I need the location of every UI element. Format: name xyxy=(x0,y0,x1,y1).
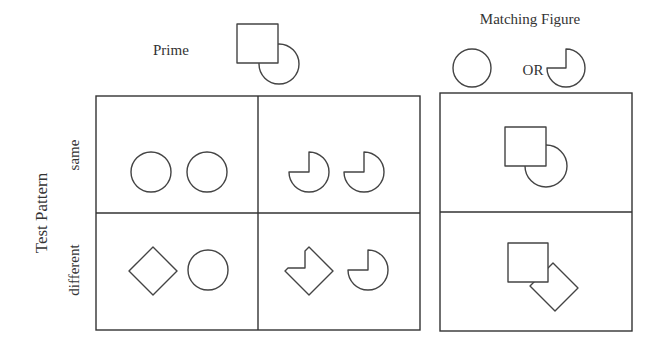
or-label: OR xyxy=(523,62,544,78)
test-pattern-axis-label: Test Pattern xyxy=(32,172,51,253)
circle-icon xyxy=(187,152,227,192)
prime-figure-icon xyxy=(237,24,299,84)
row-label-different: different xyxy=(66,243,82,295)
prime-label: Prime xyxy=(153,42,189,58)
diagram-canvas: Prime Matching Figure OR Test Pattern sa… xyxy=(0,0,657,341)
pacman-notched-circle-icon xyxy=(344,152,384,192)
matching-same-square-circle xyxy=(505,127,567,187)
row-label-same: same xyxy=(66,139,82,170)
diamond-icon xyxy=(129,247,177,295)
circle-icon xyxy=(131,152,171,192)
notched-diamond-icon xyxy=(285,247,333,295)
pacman-notched-circle-icon xyxy=(348,250,388,290)
cell-same-notched xyxy=(289,152,384,192)
test-pattern-grid xyxy=(96,96,420,330)
cell-different-diamond xyxy=(129,247,228,295)
circle-icon xyxy=(188,250,228,290)
matching-different-square-rotated xyxy=(508,243,578,311)
circle-icon xyxy=(453,49,491,87)
matching-figure-title: Matching Figure xyxy=(480,11,581,27)
pacman-notched-circle-icon xyxy=(289,152,329,192)
cell-different-notched xyxy=(285,247,388,295)
pacman-notched-circle-icon xyxy=(547,49,585,87)
cell-same-circles xyxy=(131,152,227,192)
